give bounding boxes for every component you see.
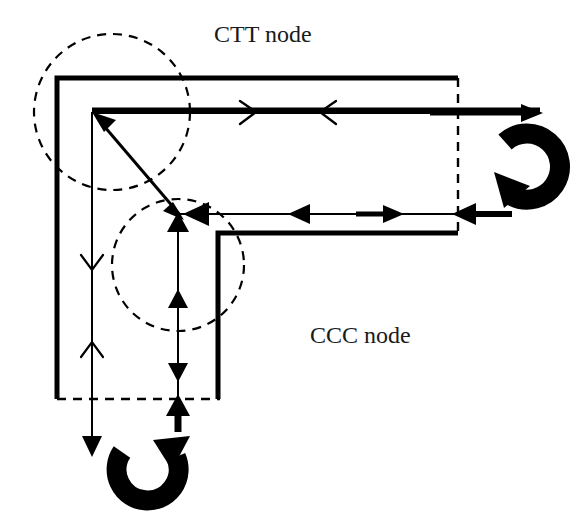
solid-triangle-arrow-left-middle xyxy=(288,204,310,224)
node-routing-diagram: CTT node CCC node xyxy=(0,0,577,514)
diagonal-arrow-head-upleft xyxy=(92,112,116,132)
solid-triangle-arrow-down-center-low xyxy=(168,363,188,382)
upper-exit-arrow-head xyxy=(521,104,543,122)
ctt-node-label: CTT node xyxy=(214,21,312,47)
thin-guide-lines xyxy=(92,112,528,452)
diagonal-arrow-shaft xyxy=(104,126,180,215)
lower-track-L-path xyxy=(218,233,458,399)
middle-entry-arrow-head xyxy=(452,203,476,225)
ccc-node-label: CCC node xyxy=(310,322,411,348)
diagram-canvas: CTT node CCC node xyxy=(0,0,577,514)
solid-triangle-arrow-left-end xyxy=(183,202,209,226)
outer-track-L-path xyxy=(57,78,458,399)
curved-loop-arrow-right xyxy=(494,134,560,208)
solid-triangle-arrow-right-middle xyxy=(383,205,404,223)
thick-track-outlines xyxy=(57,78,540,399)
dashed-boundaries xyxy=(57,78,458,399)
solid-triangle-arrow-up-center-mid xyxy=(168,289,188,308)
solid-triangle-arrow-up-center-bottom xyxy=(166,394,190,416)
solid-triangle-arrow-down-left-line xyxy=(82,436,102,457)
diagonal-transfer-arrow xyxy=(92,112,184,220)
curved-loop-arrow-bottom xyxy=(117,436,190,500)
